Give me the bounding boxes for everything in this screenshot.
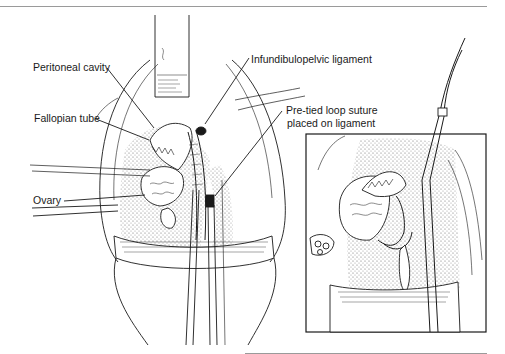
label-ovary: Ovary xyxy=(33,194,61,206)
leader-peritoneal-cavity xyxy=(107,68,154,128)
label-pretied-loop-line2: placed on ligament xyxy=(287,117,375,129)
leader-infundibulopelvic-ligament xyxy=(205,58,249,124)
surgical-illustration: Peritoneal cavity Fallopian tube Ovary I… xyxy=(0,0,505,354)
label-infundibulopelvic-ligament: Infundibulopelvic ligament xyxy=(251,53,372,65)
label-fallopian-tube: Fallopian tube xyxy=(34,112,100,124)
leader-fallopian-tube xyxy=(96,119,149,140)
label-pretied-loop-line1: Pre-tied loop suture xyxy=(286,104,378,116)
inset-detail-view xyxy=(306,38,486,332)
leader-pretied-loop xyxy=(215,111,282,196)
label-peritoneal-cavity: Peritoneal cavity xyxy=(33,61,110,73)
